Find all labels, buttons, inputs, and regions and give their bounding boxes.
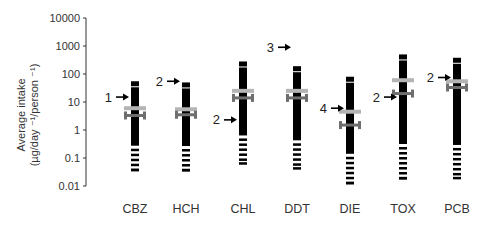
range-bar-dash <box>346 182 354 185</box>
range-bar-die <box>339 77 361 185</box>
median-marker-right <box>305 94 308 102</box>
range-bar-dash <box>182 149 190 152</box>
arrow-head-icon <box>123 94 129 101</box>
annotation-label: 2 <box>156 74 163 89</box>
median-marker <box>287 96 307 99</box>
range-bar-dash <box>131 169 139 172</box>
range-bar-dash <box>453 153 461 156</box>
range-bar-gap <box>453 63 461 64</box>
range-bar-dash <box>453 168 461 171</box>
range-bar-dash <box>399 177 407 180</box>
x-tick-label-pcb: PCB <box>444 202 470 216</box>
median-marker-right <box>411 90 414 98</box>
range-bar-dash <box>182 154 190 157</box>
median-marker-right <box>358 121 361 129</box>
range-bar-hch <box>175 82 197 171</box>
annotation-label: 2 <box>373 90 380 105</box>
median-marker-left <box>339 121 342 129</box>
range-bar-dash <box>293 148 301 151</box>
range-bar-dash <box>131 154 139 157</box>
range-bar-dash <box>399 172 407 175</box>
range-bar-gap <box>293 71 301 72</box>
range-bar-dash <box>131 164 139 167</box>
x-axis-labels: CBZHCHCHLDDTDIETOXPCB <box>123 202 470 216</box>
y-axis: 1000010001001010.10.01 <box>49 12 86 192</box>
mean-marker <box>124 106 146 110</box>
annotation-arrow-ddt: 3 <box>267 40 291 55</box>
median-marker-left <box>124 111 127 119</box>
range-bar-dash <box>453 163 461 166</box>
range-bar-dash <box>239 153 247 156</box>
annotation-arrow-cbz: 1 <box>105 90 129 105</box>
range-bar-dash <box>131 159 139 162</box>
arrow-head-icon <box>231 116 237 123</box>
annotation-arrow-hch: 2 <box>156 74 180 89</box>
arrow-head-icon <box>174 78 180 85</box>
x-tick-label-die: DIE <box>340 202 361 216</box>
range-bar-dash <box>239 143 247 146</box>
range-bar-dash <box>182 164 190 167</box>
range-bar-cbz <box>124 81 146 171</box>
range-bar-dash <box>182 169 190 172</box>
range-chart: 1000010001001010.10.01 1223422 CBZHCHCHL… <box>0 0 490 229</box>
range-bar-dash <box>453 173 461 176</box>
range-bar-dash <box>293 153 301 156</box>
median-marker-right <box>143 111 146 119</box>
range-bar-dash <box>453 148 461 151</box>
y-tick-label: 1 <box>74 124 80 136</box>
median-marker-left <box>175 111 178 119</box>
y-tick-label: 0.1 <box>65 152 80 164</box>
arrow-head-icon <box>285 44 291 51</box>
median-marker <box>176 113 196 116</box>
median-marker-left <box>286 94 289 102</box>
range-bar-dash <box>239 148 247 151</box>
range-bar-gap <box>346 82 354 83</box>
mean-marker <box>446 79 468 83</box>
range-bar-gap <box>131 86 139 87</box>
range-bar-dash <box>131 149 139 152</box>
mean-marker <box>232 89 254 93</box>
range-bar-solid <box>399 54 407 144</box>
range-bar-dash <box>399 167 407 170</box>
range-bar-solid <box>293 66 301 140</box>
range-bar-dash <box>346 157 354 160</box>
annotation-label: 1 <box>105 90 112 105</box>
median-marker-left <box>446 83 449 91</box>
range-bar-dash <box>346 162 354 165</box>
range-bar-dash <box>399 157 407 160</box>
median-marker <box>447 86 467 89</box>
range-bar-dash <box>293 167 301 170</box>
range-bar-dash <box>239 162 247 165</box>
median-marker-right <box>465 83 468 91</box>
y-tick-label: 10000 <box>49 12 80 24</box>
range-bar-dash <box>239 138 247 141</box>
range-bar-gap <box>399 59 407 60</box>
median-marker-left <box>232 94 235 102</box>
median-marker <box>125 114 145 117</box>
range-bar-dash <box>453 158 461 161</box>
range-bar-dash <box>399 152 407 155</box>
annotation-label: 2 <box>213 112 220 127</box>
median-marker-right <box>251 94 254 102</box>
range-bar-solid <box>131 81 139 145</box>
annotation-label: 4 <box>320 101 327 116</box>
x-tick-label-tox: TOX <box>390 202 416 216</box>
mean-marker <box>392 78 414 82</box>
range-bar-ddt <box>286 66 308 169</box>
y-tick-label: 1000 <box>56 40 80 52</box>
mean-marker <box>286 89 308 93</box>
range-bar-dash <box>293 163 301 166</box>
range-bar-dash <box>399 147 407 150</box>
mean-marker <box>175 107 197 111</box>
range-bar-solid <box>346 77 354 154</box>
range-bar-solid <box>453 58 461 145</box>
range-bar-tox <box>392 54 414 179</box>
x-tick-label-cbz: CBZ <box>123 202 148 216</box>
x-tick-label-ddt: DDT <box>284 202 310 216</box>
range-bar-dash <box>182 159 190 162</box>
y-tick-label: 100 <box>62 68 80 80</box>
annotation-label: 2 <box>427 70 434 85</box>
y-tick-label: 0.01 <box>59 180 80 192</box>
range-bar-dash <box>293 143 301 146</box>
range-bar-dash <box>293 158 301 161</box>
